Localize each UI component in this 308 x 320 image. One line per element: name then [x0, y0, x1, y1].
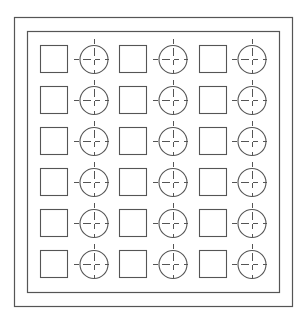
crosshair-circle-icon — [232, 80, 272, 120]
outer-frame — [15, 18, 293, 307]
grid-drawing — [0, 0, 308, 320]
crosshair-circle-icon — [74, 80, 114, 120]
crosshair-circle-icon — [153, 121, 193, 161]
crosshair-circle-icon — [153, 80, 193, 120]
square-pad — [41, 210, 68, 237]
crosshair-circle-icon — [153, 39, 193, 79]
crosshair-circle-icon — [153, 203, 193, 243]
crosshair-circle-icon — [232, 121, 272, 161]
crosshair-circle-icon — [74, 244, 114, 284]
crosshair-circle-icon — [153, 244, 193, 284]
square-pad — [41, 251, 68, 278]
crosshair-circle-icon — [74, 121, 114, 161]
drawing-canvas — [0, 0, 308, 320]
square-pad — [120, 210, 147, 237]
square-pad — [41, 87, 68, 114]
crosshair-circle-icon — [74, 203, 114, 243]
crosshair-circle-icon — [232, 162, 272, 202]
square-pad — [200, 169, 227, 196]
grid-elements — [41, 39, 273, 284]
square-pad — [41, 46, 68, 73]
inner-frame — [28, 32, 280, 293]
square-pad — [120, 169, 147, 196]
square-pad — [120, 46, 147, 73]
crosshair-circle-icon — [74, 162, 114, 202]
square-pad — [200, 46, 227, 73]
square-pad — [120, 251, 147, 278]
square-pad — [120, 87, 147, 114]
square-pad — [200, 210, 227, 237]
crosshair-circle-icon — [74, 39, 114, 79]
square-pad — [41, 169, 68, 196]
crosshair-circle-icon — [232, 203, 272, 243]
crosshair-circle-icon — [153, 162, 193, 202]
crosshair-circle-icon — [232, 39, 272, 79]
square-pad — [200, 251, 227, 278]
square-pad — [200, 128, 227, 155]
square-pad — [41, 128, 68, 155]
square-pad — [200, 87, 227, 114]
crosshair-circle-icon — [232, 244, 272, 284]
square-pad — [120, 128, 147, 155]
